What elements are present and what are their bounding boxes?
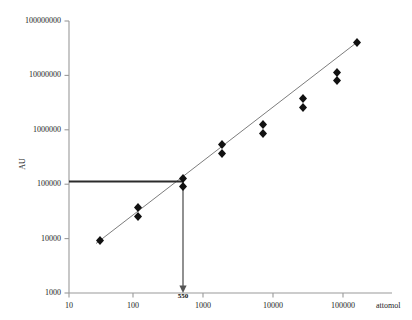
chart-plot-area: [0, 0, 412, 320]
x-axis-title: attomol: [376, 302, 400, 310]
y-tick-label-1000: 1000: [0, 289, 61, 297]
data-point: [218, 140, 226, 149]
y-tick-label-1000000: 1000000: [0, 126, 61, 134]
axis-lines: [69, 21, 392, 293]
x-axis-ticks: [69, 293, 343, 298]
data-point: [96, 236, 104, 245]
x-tick-label-10: 10: [65, 302, 73, 310]
x-tick-label-100000: 100000: [331, 302, 355, 310]
data-point: [259, 120, 267, 129]
data-point: [134, 203, 142, 212]
data-point: [299, 103, 307, 112]
trendline: [96, 42, 358, 244]
data-point: [179, 182, 187, 191]
y-tick-label-10000000: 10000000: [0, 71, 61, 79]
data-point: [299, 94, 307, 103]
readout-guides: [69, 182, 187, 294]
y-axis-ticks: [65, 21, 70, 293]
annotation-550-label: 550: [178, 293, 189, 300]
y-tick-label-100000000: 100000000: [0, 17, 61, 25]
y-tick-label-10000: 10000: [0, 235, 61, 243]
x-tick-label-10000: 10000: [263, 302, 283, 310]
data-point: [218, 149, 226, 158]
y-tick-label-100000: 100000: [0, 180, 61, 188]
y-axis-title: AU: [19, 153, 27, 175]
x-tick-label-1000: 1000: [195, 302, 211, 310]
chart-container: 100000000 10000000 1000000 100000 10000 …: [0, 0, 412, 320]
data-point: [333, 68, 341, 77]
x-tick-label-100: 100: [127, 302, 139, 310]
data-point: [333, 76, 341, 85]
data-point: [353, 38, 361, 47]
data-point: [259, 129, 267, 138]
